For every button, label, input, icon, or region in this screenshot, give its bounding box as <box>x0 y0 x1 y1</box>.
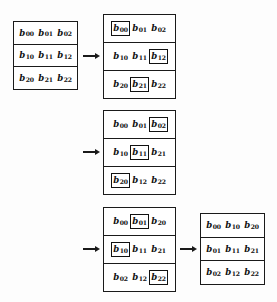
cell-subscript: 01 <box>139 123 147 129</box>
cell-subscript: 02 <box>120 276 128 282</box>
cell-subscript: 02 <box>158 123 166 129</box>
cell-subscript: 00 <box>120 27 128 33</box>
matrix-cell: b21 <box>149 145 168 160</box>
matrix-cell: b22 <box>149 173 168 188</box>
cell-symbol: b <box>57 74 63 83</box>
cell-subscript: 20 <box>120 83 128 89</box>
arrow-right-icon <box>83 147 100 157</box>
matrix-row: b10b11b12 <box>104 43 175 71</box>
matrix-cell-highlighted: b20 <box>111 173 130 188</box>
cell-subscript: 21 <box>158 151 166 157</box>
matrix-row: b10b11b21 <box>104 139 175 167</box>
cell-subscript: 10 <box>232 224 240 230</box>
matrix-cell: b12 <box>223 265 242 280</box>
cell-symbol: b <box>151 120 157 129</box>
matrix-row: b00b10b20 <box>201 214 264 238</box>
cell-symbol: b <box>151 245 157 254</box>
cell-symbol: b <box>38 51 44 60</box>
matrix-5: b00b10b20b01b11b21b02b12b22 <box>200 213 265 285</box>
cell-subscript: 11 <box>139 55 147 61</box>
matrix-cell-highlighted: b01 <box>130 214 149 229</box>
cell-subscript: 10 <box>120 151 128 157</box>
matrix-cell: b02 <box>204 265 223 280</box>
matrix-cell: b10 <box>17 48 36 63</box>
arrow-head <box>95 53 100 59</box>
matrix-cell-highlighted: b11 <box>130 145 149 160</box>
cell-symbol: b <box>113 273 119 282</box>
matrix-cell: b11 <box>36 48 55 63</box>
cell-subscript: 01 <box>139 220 147 226</box>
cell-symbol: b <box>132 273 138 282</box>
matrix-cell: b22 <box>149 77 168 92</box>
arrow-shaft <box>180 248 193 250</box>
matrix-cell: b02 <box>55 25 74 40</box>
cell-symbol: b <box>151 52 157 61</box>
matrix-cell-highlighted: b02 <box>149 117 168 132</box>
cell-subscript: 11 <box>45 54 53 60</box>
matrix-cell-highlighted: b22 <box>149 270 168 285</box>
cell-symbol: b <box>132 120 138 129</box>
cell-subscript: 20 <box>158 220 166 226</box>
arrow-shaft <box>83 151 96 153</box>
cell-symbol: b <box>113 176 119 185</box>
cell-symbol: b <box>113 80 119 89</box>
cell-symbol: b <box>113 120 119 129</box>
cell-symbol: b <box>113 217 119 226</box>
cell-symbol: b <box>19 74 25 83</box>
cell-symbol: b <box>113 52 119 61</box>
cell-subscript: 21 <box>251 248 259 254</box>
cell-subscript: 22 <box>251 271 259 277</box>
matrix-cell: b00 <box>204 218 223 233</box>
matrix-row: b01b11b21 <box>201 238 264 262</box>
matrix-cell: b00 <box>111 117 130 132</box>
cell-symbol: b <box>19 51 25 60</box>
cell-symbol: b <box>57 29 63 38</box>
cell-symbol: b <box>113 24 119 33</box>
matrix-cell: b20 <box>149 214 168 229</box>
cell-subscript: 11 <box>139 248 147 254</box>
arrow-right-icon <box>180 244 197 254</box>
matrix-cell-highlighted: b12 <box>149 49 168 64</box>
matrix-cell: b12 <box>55 48 74 63</box>
matrix-row: b10b11b12 <box>14 45 77 68</box>
cell-symbol: b <box>132 245 138 254</box>
cell-symbol: b <box>225 221 231 230</box>
cell-symbol: b <box>225 268 231 277</box>
cell-subscript: 21 <box>45 77 53 83</box>
cell-subscript: 21 <box>158 248 166 254</box>
matrix-1: b00b01b02b10b11b12b20b21b22 <box>13 21 78 90</box>
cell-subscript: 10 <box>120 55 128 61</box>
arrow-shaft <box>83 55 96 57</box>
cell-subscript: 22 <box>158 276 166 282</box>
matrix-row: b10b11b21 <box>104 236 175 264</box>
cell-symbol: b <box>132 217 138 226</box>
cell-symbol: b <box>151 176 157 185</box>
cell-subscript: 12 <box>139 179 147 185</box>
matrix-cell-highlighted: b21 <box>130 77 149 92</box>
matrix-row: b00b01b20 <box>104 208 175 236</box>
cell-subscript: 20 <box>120 179 128 185</box>
cell-symbol: b <box>151 24 157 33</box>
matrix-cell: b21 <box>242 242 261 257</box>
cell-subscript: 01 <box>213 248 221 254</box>
cell-subscript: 12 <box>232 271 240 277</box>
cell-subscript: 12 <box>139 276 147 282</box>
matrix-cell: b12 <box>130 270 149 285</box>
cell-symbol: b <box>151 273 157 282</box>
cell-symbol: b <box>57 51 63 60</box>
matrix-cell: b01 <box>36 25 55 40</box>
cell-subscript: 01 <box>45 31 53 37</box>
cell-symbol: b <box>244 268 250 277</box>
matrix-row: b00b01b02 <box>14 22 77 45</box>
cell-subscript: 10 <box>120 248 128 254</box>
cell-symbol: b <box>132 52 138 61</box>
cell-subscript: 12 <box>158 55 166 61</box>
matrix-row: b02b12b22 <box>201 261 264 284</box>
cell-symbol: b <box>151 217 157 226</box>
cell-symbol: b <box>132 80 138 89</box>
cell-symbol: b <box>244 245 250 254</box>
cell-subscript: 22 <box>64 77 72 83</box>
cell-subscript: 22 <box>158 179 166 185</box>
matrix-cell: b00 <box>17 25 36 40</box>
matrix-cell: b01 <box>130 21 149 36</box>
